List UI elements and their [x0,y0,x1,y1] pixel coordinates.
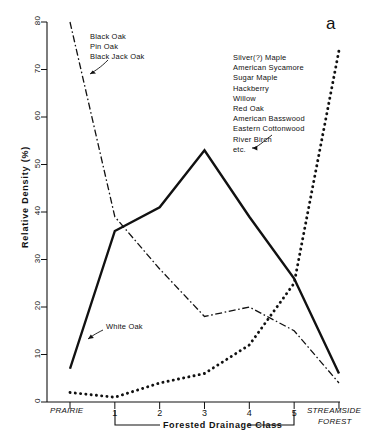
annotation-line: Hackberry [233,84,305,94]
annotation-black-oak-group: Black OakPin OakBlack Jack Oak [90,32,144,63]
x-tick-label: 5 [288,408,300,418]
y-tick-label: 10 [33,346,42,360]
y-axis-ticks [41,22,47,402]
y-tick-label: 60 [33,109,42,123]
y-tick-label: 70 [33,61,42,75]
x-tick-label: 1 [109,408,121,418]
annotation-white-oak: White Oak [106,322,143,331]
x-axis-right-end-label-line2: FOREST [318,417,352,426]
white-oak-series [70,150,339,373]
annotation-line: Silver(?) Maple [233,53,305,63]
y-axis-title: Relative Density (%) [20,146,30,248]
x-tick-label: 4 [243,408,255,418]
y-tick-label: 20 [33,299,42,313]
y-tick-label: 50 [33,156,42,170]
annotation-line: etc. [233,145,305,155]
x-tick-label: 2 [154,408,166,418]
y-tick-label: 30 [33,251,42,265]
y-tick-label: 40 [33,204,42,218]
annotation-line: Black Oak [90,32,144,42]
x-axis-title: Forested Drainage Class [163,420,282,430]
annotation-line: Sugar Maple [233,73,305,83]
y-tick-label: 80 [33,14,42,28]
panel-label: a [326,14,335,34]
x-tick-label: 3 [198,408,210,418]
annotation-line: American Basswood [233,114,305,124]
x-axis-left-end-label: PRAIRIE [50,406,83,415]
annotation-line: River Birch [233,135,305,145]
annotation-line: Black Jack Oak [90,52,144,62]
annotation-line: American Sycamore [233,63,305,73]
y-tick-label: 0 [33,394,42,408]
annotation-line: Red Oak [233,104,305,114]
annotation-mesic-species-group: Silver(?) MapleAmerican SycamoreSugar Ma… [233,53,305,155]
x-axis-right-end-label-line1: STREAMSIDE [307,406,361,415]
annotation-line: Willow [233,94,305,104]
chart-figure [0,0,381,447]
annotation-line: Pin Oak [90,42,144,52]
annotation-line: Eastern Cottonwood [233,124,305,134]
